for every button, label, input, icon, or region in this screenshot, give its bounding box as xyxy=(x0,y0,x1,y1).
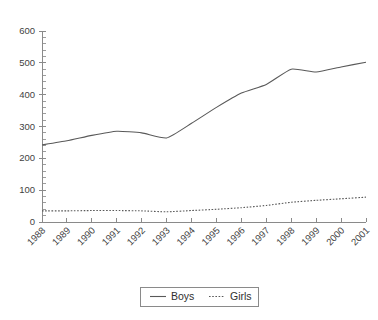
line-chart: 0100200300400500600 19881989199019911992… xyxy=(0,0,378,320)
chart-background xyxy=(0,0,378,320)
chart-canvas: 0100200300400500600 19881989199019911992… xyxy=(0,0,378,320)
y-tick-label: 600 xyxy=(19,25,35,36)
y-tick-label: 500 xyxy=(19,57,35,68)
y-tick-label: 300 xyxy=(19,121,35,132)
y-tick-label: 100 xyxy=(19,184,35,195)
y-tick-label: 400 xyxy=(19,89,35,100)
legend-label-girls: Girls xyxy=(230,290,252,302)
y-tick-label: 200 xyxy=(19,152,35,163)
chart-legend: BoysGirls xyxy=(140,287,258,306)
y-tick-label: 0 xyxy=(30,216,35,227)
legend-label-boys: Boys xyxy=(171,290,194,302)
